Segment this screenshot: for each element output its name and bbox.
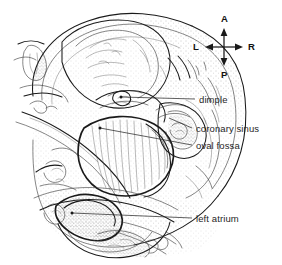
compass-arrow-anterior <box>221 28 228 47</box>
annotation-label-coronary-sinus: coronary sinus <box>196 124 259 134</box>
compass-label-posterior: P <box>221 70 227 80</box>
compass-arrow-right <box>224 44 243 51</box>
compass-label-left: L <box>193 42 199 52</box>
annotation-label-dimple: dimple <box>199 95 228 105</box>
annotation-label-left-atrium: left atrium <box>196 214 239 224</box>
vessel-stump <box>23 45 47 80</box>
compass-label-anterior: A <box>221 14 228 24</box>
annotation-label-oval-fossa: oval fossa <box>196 141 240 151</box>
compass-label-right: R <box>248 42 255 52</box>
anatomy-figure: A L R P dimple coronary sinus oval fossa… <box>0 0 282 265</box>
